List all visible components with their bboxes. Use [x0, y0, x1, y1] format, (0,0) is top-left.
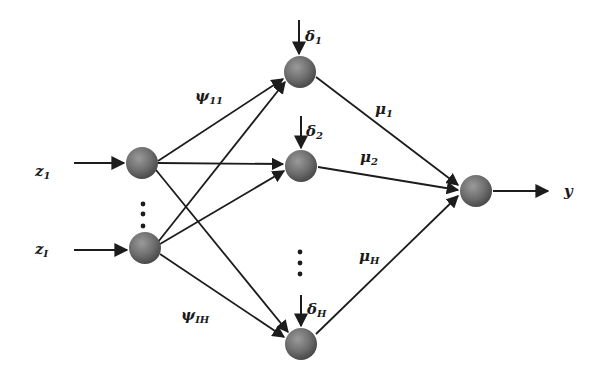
hidden-node-2	[285, 150, 317, 182]
hidden-node-1	[284, 56, 316, 88]
label-zI: zI	[35, 242, 48, 259]
label-delta-2: δ2	[306, 124, 323, 141]
input-ellipsis-dots	[141, 202, 146, 229]
edge-inI-h2	[160, 171, 284, 244]
label-delta-1: δ1	[305, 29, 322, 46]
edges-input-hidden	[156, 79, 288, 337]
edge-h2-out	[318, 167, 458, 190]
neural-network-diagram	[0, 0, 602, 387]
hidden-node-H	[285, 328, 317, 360]
label-delta-H: δH	[307, 302, 326, 319]
label-y: y	[564, 184, 573, 199]
label-mu-H: μH	[359, 249, 379, 266]
edge-hH-out	[316, 196, 458, 334]
input-node-I	[129, 232, 161, 264]
label-z1: z1	[35, 164, 51, 181]
edge-inI-hH	[160, 254, 284, 337]
hidden-ellipsis-dots	[298, 250, 303, 277]
label-psi-11: ψ11	[195, 89, 223, 106]
output-node	[460, 175, 492, 207]
label-psi-IH: ψIH	[181, 308, 209, 325]
edge-in1-hH	[156, 170, 288, 332]
label-mu-1: μ1	[375, 102, 393, 119]
input-node-1	[126, 147, 158, 179]
label-mu-2: μ2	[360, 150, 378, 167]
edge-h1-out	[316, 77, 458, 185]
edge-inI-h1	[158, 82, 285, 242]
